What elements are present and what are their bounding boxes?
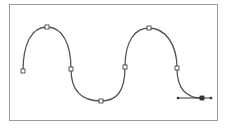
anchor-point[interactable] [21,69,25,73]
anchor-point[interactable] [175,66,179,70]
anchor-point[interactable] [99,99,103,103]
anchor-point[interactable] [45,25,49,29]
anchor-point[interactable] [123,65,127,69]
handle-endpoint[interactable] [177,97,180,100]
handle-endpoint[interactable] [210,97,213,100]
bezier-curve[interactable] [23,27,202,101]
bezier-path-drawing [0,0,228,133]
anchor-point[interactable] [200,96,204,100]
anchor-point[interactable] [147,26,151,30]
anchor-point[interactable] [69,67,73,71]
